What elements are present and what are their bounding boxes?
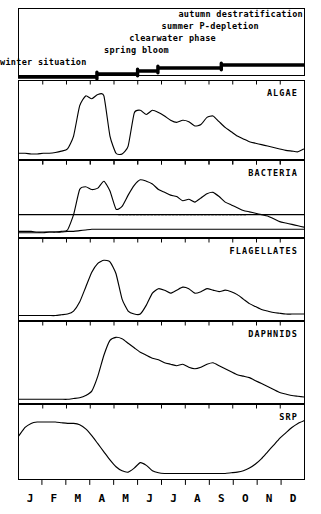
phase-staircase-bar [18, 60, 305, 80]
panel-label-bacteria: BACTERIA [248, 168, 298, 178]
panel-flagellates: FLAGELLATES [18, 238, 305, 321]
phase-label-summer: summer P-depletion [161, 22, 259, 31]
month-label-2: M [66, 492, 90, 505]
month-label-9: O [233, 492, 257, 505]
figure-root: autumn destratification summer P-depleti… [0, 0, 321, 514]
panel-label-daphnids: DAPHNIDS [248, 329, 298, 339]
month-axis: JFMAMJJASOND [18, 480, 305, 510]
month-label-0: J [18, 492, 42, 505]
phase-label-autumn: autumn destratification [178, 10, 303, 19]
panel-daphnids: DAPHNIDS [18, 321, 305, 404]
panel-algae: ALGAE [18, 80, 305, 160]
month-label-8: S [209, 492, 233, 505]
month-label-5: J [138, 492, 162, 505]
month-label-10: N [257, 492, 281, 505]
phase-label-clearwater: clearwater phase [129, 34, 216, 43]
month-label-3: A [90, 492, 114, 505]
panel-label-algae: ALGAE [267, 88, 298, 98]
month-label-11: D [281, 492, 305, 505]
phase-label-spring-bloom: spring bloom [104, 46, 169, 55]
month-tick-marks [18, 480, 305, 492]
panel-label-flagellates: FLAGELLATES [230, 246, 298, 256]
month-label-1: F [42, 492, 66, 505]
panel-srp: SRP [18, 404, 305, 480]
panel-label-srp: SRP [279, 412, 298, 422]
month-label-7: A [185, 492, 209, 505]
month-label-6: J [161, 492, 185, 505]
panel-bacteria: BACTERIA [18, 160, 305, 238]
srp-plot [19, 405, 304, 479]
month-label-4: M [114, 492, 138, 505]
algae-plot [19, 81, 304, 159]
